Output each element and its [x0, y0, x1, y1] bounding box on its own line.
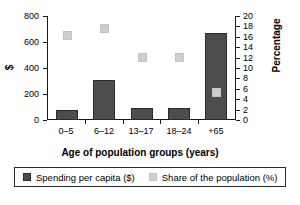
legend-item-spending: Spending per capita ($) — [23, 172, 135, 183]
right-axis-tick-label: 6 — [243, 85, 248, 94]
legend-swatch-spending-icon — [23, 173, 31, 181]
right-axis-tick — [236, 99, 240, 100]
bar-spending-0-5 — [56, 110, 78, 120]
marker-share-65 — [212, 88, 221, 97]
right-axis-tick-label: 18 — [243, 22, 253, 31]
x-axis-category-label: +65 — [197, 126, 235, 136]
marker-share-0-5 — [63, 31, 72, 40]
x-axis-category-label: 0–5 — [47, 126, 85, 136]
right-axis-tick-label: 10 — [243, 64, 253, 73]
marker-share-13-17 — [138, 53, 147, 62]
x-axis-tick — [198, 120, 199, 124]
right-axis-tick — [236, 68, 240, 69]
legend-label-share: Share of the population (%) — [162, 172, 278, 183]
right-axis-tick — [236, 16, 240, 17]
marker-share-18-24 — [175, 53, 184, 62]
marker-share-6-12 — [100, 24, 109, 33]
right-axis-tick — [236, 26, 240, 27]
x-axis-tick — [85, 120, 86, 124]
right-axis-tick — [236, 110, 240, 111]
x-axis-category-label: 13–17 — [122, 126, 160, 136]
right-axis-tick — [236, 89, 240, 90]
right-axis-tick-label: 2 — [243, 106, 248, 115]
legend-swatch-share-icon — [149, 173, 157, 181]
legend-item-share: Share of the population (%) — [149, 172, 278, 183]
right-axis-tick — [236, 120, 240, 121]
right-axis-tick-label: 16 — [243, 33, 253, 42]
right-axis-tick-label: 0 — [243, 116, 248, 125]
left-axis-tick-label: 0 — [5, 116, 39, 125]
right-axis-tick — [236, 47, 240, 48]
right-axis-tick-label: 20 — [243, 12, 253, 21]
right-axis-tick — [236, 58, 240, 59]
right-axis-tick — [236, 78, 240, 79]
right-axis-tick-label: 8 — [243, 74, 248, 83]
right-axis-tick-label: 12 — [243, 54, 253, 63]
plot-area — [48, 16, 235, 120]
bar-spending-65 — [205, 33, 227, 120]
x-axis-title: Age of population groups (years) — [25, 147, 255, 158]
x-axis-tick — [160, 120, 161, 124]
right-axis-tick-label: 14 — [243, 43, 253, 52]
left-axis-tick-label: 200 — [5, 90, 39, 99]
right-axis-title: Percentage — [271, 18, 282, 74]
left-axis-title: $ — [4, 55, 15, 81]
bar-spending-6-12 — [93, 80, 115, 120]
right-axis-tick-label: 4 — [243, 95, 248, 104]
x-axis-category-label: 6–12 — [85, 126, 123, 136]
x-axis-category-label: 18–24 — [160, 126, 198, 136]
bar-spending-18-24 — [168, 108, 190, 120]
chart-legend: Spending per capita ($) Share of the pop… — [14, 167, 286, 187]
legend-label-spending: Spending per capita ($) — [36, 172, 135, 183]
right-axis-tick — [236, 37, 240, 38]
left-axis-tick-label: 800 — [5, 12, 39, 21]
left-axis-tick-label: 600 — [5, 38, 39, 47]
x-axis-tick — [123, 120, 124, 124]
bar-spending-13-17 — [131, 108, 153, 120]
left-axis-tick — [43, 120, 47, 121]
chart-figure: 800 600 400 200 0 $ 0–5 6–12 13–17 18–24… — [0, 0, 300, 205]
